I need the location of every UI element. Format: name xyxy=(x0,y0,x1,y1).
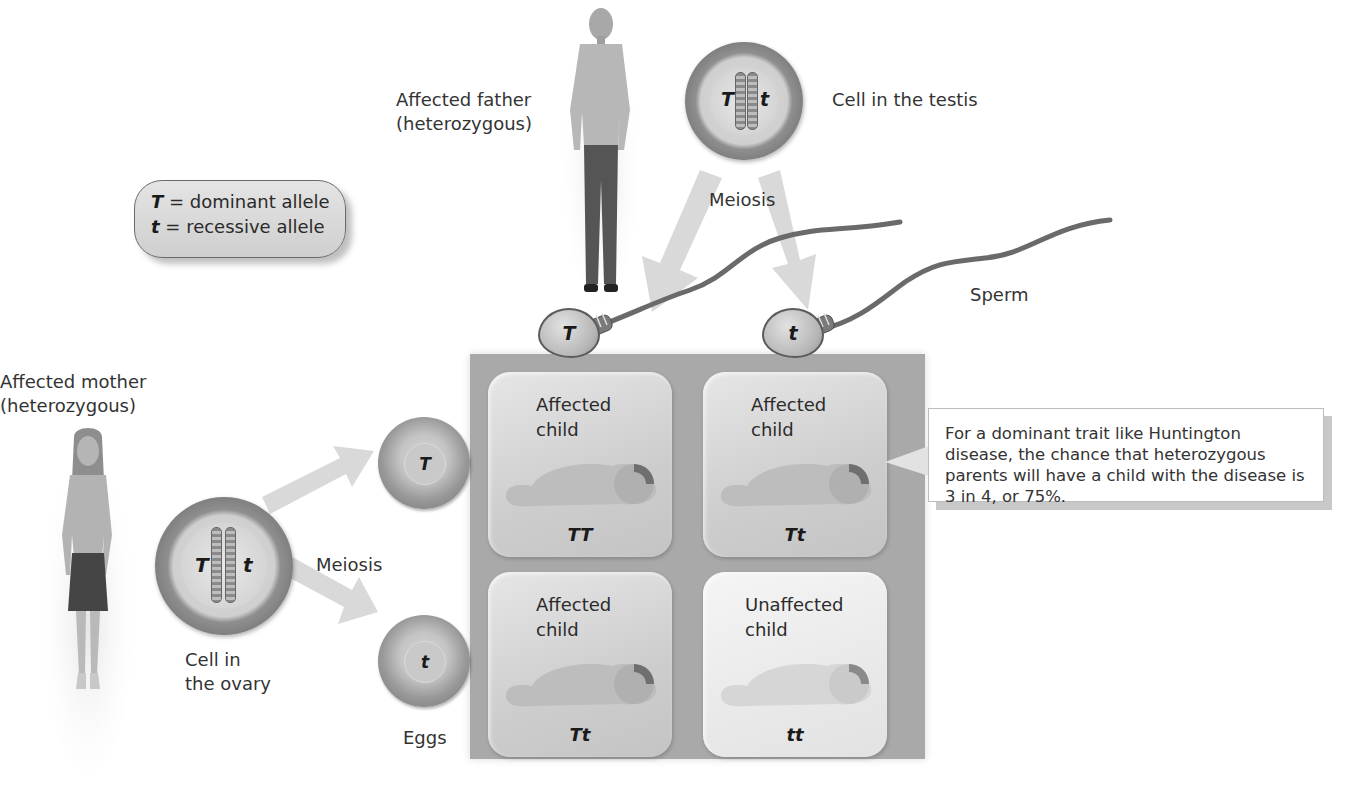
egg-T: T xyxy=(378,417,470,509)
punnett-cell-Tt-top: Affectedchild Tt xyxy=(703,372,887,557)
baby-icon xyxy=(717,654,877,710)
sperm-T: T xyxy=(538,308,600,358)
baby-icon xyxy=(502,454,662,510)
punnett-cell-tt: Unaffectedchild tt xyxy=(703,572,887,757)
probability-callout: For a dominant trait like Huntington dis… xyxy=(928,408,1324,502)
punnett-square: Affectedchild TT Affectedchild Tt Affect… xyxy=(470,354,925,759)
ovary-cell-label: Cell in the ovary xyxy=(185,648,271,696)
punnett-cell-Tt-bottom: Affectedchild Tt xyxy=(488,572,672,757)
mother-meiosis-label: Meiosis xyxy=(316,553,382,577)
baby-icon xyxy=(502,654,662,710)
punnett-cell-TT: Affectedchild TT xyxy=(488,372,672,557)
baby-icon xyxy=(717,454,877,510)
mother-label: Affected mother (heterozygous) xyxy=(0,370,146,418)
sperm-label: Sperm xyxy=(970,283,1029,307)
sperm-t: t xyxy=(762,308,824,358)
chromosome-icon xyxy=(211,527,222,603)
chromosome-icon xyxy=(225,527,236,603)
mother-figure-icon xyxy=(40,425,140,794)
egg-t: t xyxy=(378,615,470,707)
eggs-label: Eggs xyxy=(403,726,447,750)
ovary-cell: T t xyxy=(155,497,293,635)
